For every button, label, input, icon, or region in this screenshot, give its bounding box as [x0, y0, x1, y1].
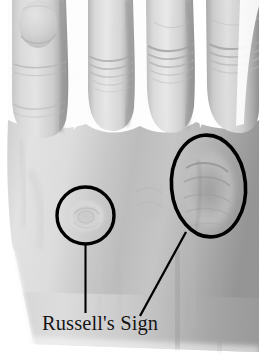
annotation-overlay — [0, 0, 259, 359]
russells-sign-figure: Russell's Sign — [0, 0, 259, 359]
annotation-ellipse-index-knuckle[interactable] — [167, 132, 250, 240]
annotation-circle-ring-knuckle[interactable] — [57, 187, 114, 244]
leader-line-right-diagonal — [140, 232, 186, 316]
